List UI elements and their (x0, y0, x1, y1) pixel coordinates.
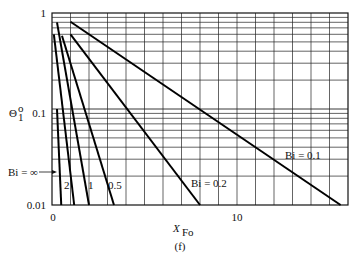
chart: 1 0.1 0.01 0 10 Θ o 1 X Fo (f) Bi = ∞ 2 … (0, 0, 364, 255)
y-axis-label: Θ o 1 (9, 102, 24, 123)
curve-bi∞ (57, 109, 61, 205)
label-bi-0.2: Bi = 0.2 (191, 177, 227, 189)
svg-text:Fo: Fo (182, 226, 194, 238)
label-bi-1: 1 (88, 179, 94, 191)
figure-caption: (f) (175, 240, 186, 253)
svg-text:X: X (172, 222, 181, 234)
label-bi-inf: Bi = ∞ (8, 166, 38, 178)
x-axis-label: X Fo (172, 222, 194, 238)
label-bi-0.5: 0.5 (108, 179, 122, 191)
svg-text:1: 1 (18, 111, 24, 123)
svg-text:Θ: Θ (9, 107, 17, 119)
x-tick-0: 0 (50, 211, 56, 223)
arrow-head-icon (52, 170, 57, 174)
y-tick-1: 1 (41, 7, 47, 19)
y-tick-0.1: 0.1 (32, 107, 46, 119)
label-bi-2: 2 (64, 179, 70, 191)
y-tick-0.01: 0.01 (27, 199, 46, 211)
label-bi-0.1: Bi = 0.1 (285, 149, 321, 161)
x-tick-10: 10 (232, 211, 244, 223)
